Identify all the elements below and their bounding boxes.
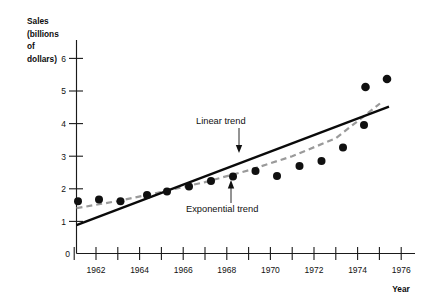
data-point-1973 [339, 144, 347, 152]
data-point-1966 [185, 183, 193, 191]
data-point-1961 [74, 197, 82, 205]
data-point-1975 [383, 75, 392, 84]
y-ticklabel-1: 1 [61, 217, 66, 227]
exponential-trend-arrow-head [228, 180, 234, 189]
y-ticklabel-2: 2 [61, 184, 66, 194]
chart-canvas: 6 5 4 3 2 1 0 Sales (billions of dollars… [0, 0, 440, 306]
x-ticklabel-1976: 1976 [392, 265, 411, 275]
data-point-1970 [273, 172, 281, 180]
y-axis-title: Sales (billions of dollars) [27, 16, 59, 64]
y-axis-title-line-2: (billions [27, 29, 59, 39]
data-point-1963 [117, 197, 125, 205]
data-point-1974 [360, 121, 368, 129]
exponential-trend-annotation: Exponential trend [186, 180, 258, 214]
data-point-1969 [252, 167, 260, 175]
x-ticklabel-1964: 1964 [130, 265, 149, 275]
data-point-1967 [207, 177, 215, 185]
y-ticklabel-5: 5 [61, 86, 66, 96]
x-ticklabel-1968: 1968 [217, 265, 236, 275]
data-point-1968 [229, 173, 237, 181]
x-ticklabel-1972: 1972 [305, 265, 324, 275]
data-point-1974b [361, 83, 370, 92]
y-ticklabel-4: 4 [61, 119, 66, 129]
exponential-trend-label: Exponential trend [186, 204, 258, 214]
x-ticklabel-1966: 1966 [174, 265, 193, 275]
linear-trend-arrow-head [236, 145, 242, 153]
linear-trend-label: Linear trend [196, 116, 246, 126]
y-ticklabel-0: 0 [65, 249, 70, 259]
linear-trend-annotation: Linear trend [196, 116, 246, 153]
data-point-1964 [143, 191, 151, 199]
y-axis-tick-labels: 6 5 4 3 2 1 0 [61, 54, 70, 259]
x-ticklabel-1974: 1974 [348, 265, 367, 275]
x-ticklabel-1962: 1962 [87, 265, 106, 275]
y-ticklabel-3: 3 [61, 152, 66, 162]
y-axis-title-line-3: of [27, 41, 35, 51]
x-ticklabel-1970: 1970 [261, 265, 280, 275]
data-point-1972 [318, 157, 326, 165]
sales-trend-chart: 6 5 4 3 2 1 0 Sales (billions of dollars… [0, 0, 440, 306]
data-point-1965 [163, 188, 171, 196]
y-ticklabel-6: 6 [61, 54, 66, 64]
y-axis-title-line-1: Sales [27, 16, 49, 26]
data-point-1962 [95, 196, 103, 204]
y-axis-title-line-4: dollars) [27, 54, 57, 64]
data-point-1971 [296, 162, 304, 170]
x-axis-tick-labels: 1962 1964 1966 1968 1970 1972 1974 1976 [87, 265, 411, 275]
x-axis-title: Year [392, 284, 410, 294]
